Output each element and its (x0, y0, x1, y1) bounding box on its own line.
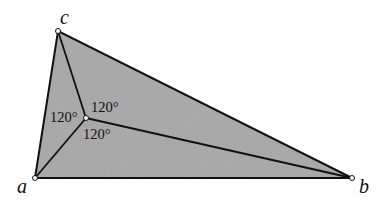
label-b: b (359, 175, 369, 197)
label-c: c (60, 6, 69, 28)
vertex-c (56, 29, 61, 34)
angle-label-lower: 120° (83, 126, 111, 142)
vertex-b (350, 176, 355, 181)
triangle-diagram: a b c 120° 120° 120° (0, 0, 387, 202)
angle-label-upper: 120° (91, 99, 119, 115)
interior-point (84, 116, 89, 121)
vertex-a (33, 176, 38, 181)
label-a: a (17, 175, 27, 197)
angle-label-left: 120° (50, 109, 78, 125)
